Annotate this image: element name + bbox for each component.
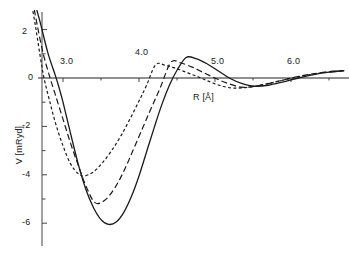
x-tick-label-4: 4.0 [135,47,148,57]
x-tick-label-3: 3.0 [60,56,73,66]
axis-lines [38,12,349,246]
data-curves [31,1,344,225]
x-axis-label: R [Å] [193,92,214,102]
y-tick-label-2: 2 [22,26,27,36]
solid-curve [34,1,344,225]
short-dashed-curve [31,1,344,177]
y-tick-label-minus4: -4 [22,169,30,179]
x-tick-label-5: 5.0 [211,56,224,66]
chart-figure: V [mRyd] R [Å] 3.0 4.0 5.0 6.0 2 0 -2 -4… [0,0,349,255]
plot-canvas [0,0,349,255]
x-tick-label-6: 6.0 [287,56,300,66]
y-tick-label-minus6: -6 [22,217,30,227]
y-tick-label-0: 0 [28,72,33,82]
long-dashed-curve [33,1,345,204]
y-tick-label-minus2: -2 [22,120,30,130]
